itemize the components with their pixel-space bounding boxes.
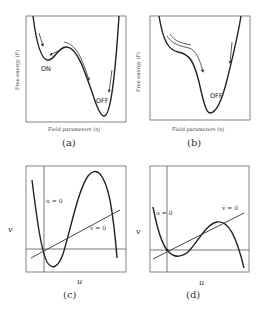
caption-b: (b): [187, 137, 201, 148]
panel-b: OFF Field parameters (η) Free energy (F)…: [135, 16, 250, 148]
v-nullcline-label: v̇ = 0: [221, 204, 238, 211]
panel-c: u̇ = 0 v̇ = 0 v u (c): [8, 166, 126, 300]
label-off: OFF: [210, 92, 223, 100]
fixed-point-icon: [166, 249, 169, 252]
figure: ON OFF Field parameters (η) Free energy …: [0, 0, 263, 316]
panel-d-frame: [150, 166, 249, 272]
u-nullcline-c: [32, 171, 117, 266]
u-nullcline-label: u̇ = 0: [156, 209, 173, 216]
y-axis-label: v: [136, 227, 141, 236]
caption-d: (d): [186, 289, 200, 300]
v-nullcline-label: v̇ = 0: [89, 224, 106, 231]
panel-b-frame: [150, 16, 250, 120]
x-axis-label: u: [199, 278, 204, 287]
arrow-icon: [170, 34, 191, 45]
free-energy-curve-b: [159, 16, 241, 113]
x-axis-label: Field parameters (η): [172, 126, 224, 133]
u-nullcline-label: u̇ = 0: [46, 197, 63, 204]
panel-c-frame: [26, 166, 126, 272]
y-axis-label: Free energy (F): [135, 52, 142, 92]
y-axis-label: v: [8, 225, 13, 234]
x-axis-label: Field parameters (η): [48, 126, 100, 133]
arrow-icon: [109, 70, 112, 92]
x-axis-label: u: [77, 277, 82, 286]
label-off: OFF: [96, 97, 109, 105]
panel-d: u̇ = 0 v̇ = 0 v u (d): [136, 166, 249, 300]
y-axis-label: Free energy (F): [14, 50, 21, 90]
label-on: ON: [41, 65, 51, 73]
panel-a: ON OFF Field parameters (η) Free energy …: [14, 16, 126, 148]
arrow-icon: [39, 33, 43, 46]
caption-a: (a): [62, 137, 76, 148]
caption-c: (c): [63, 289, 77, 300]
